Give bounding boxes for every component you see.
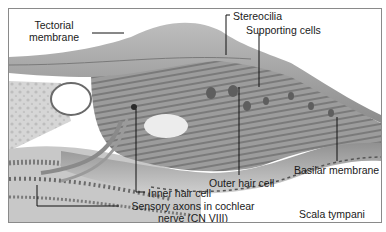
label-scala-tympani: Scala tympani [299,208,365,220]
label-outer-hair-cell: Outer hair cell [209,177,274,189]
label-tectorial-line1: Tectorial [15,19,93,31]
label-supporting-cells: Supporting cells [246,24,321,36]
tunnel-of-corti [144,114,188,138]
label-tectorial-line2: membrane [15,31,93,43]
label-sensory-axons-line1: Sensory axons in cochlear [123,200,263,212]
label-sensory-axons: Sensory axons in cochlear nerve (CN VIII… [123,200,263,223]
label-basilar-membrane: Basilar membrane [294,164,379,176]
label-tectorial-membrane: Tectorial membrane [15,19,93,43]
label-inner-hair-cell: Inner hair cell [148,187,211,199]
label-sensory-axons-line2: nerve (CN VIII) [123,212,263,223]
diagram-frame: Tectorial membrane Stereocilia Supportin… [8,8,382,223]
label-stereocilia: Stereocilia [233,10,282,22]
